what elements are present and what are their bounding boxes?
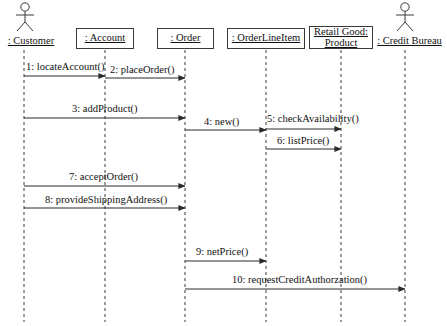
participant-order[interactable]: : Order [157,28,214,49]
participant-label-creditbureau: : Credit Bureau [372,35,447,47]
message-label-9: 9: netPrice() [196,246,248,258]
participant-label-account: : Account [85,32,126,44]
participant-label-order: : Order [170,32,200,44]
participant-label-product-line1: Retail Good: [314,26,368,37]
participant-label-customer: : Customer [0,35,62,47]
uml-sequence-diagram: : Customer: Account: Order: OrderLineIte… [0,0,447,326]
participant-orderlineitem[interactable]: : OrderLineItem [227,28,305,49]
message-label-8: 8: provideShippingAddress() [45,194,167,206]
message-label-6: 6: listPrice() [277,135,329,147]
actor-figure-icon [394,2,416,32]
participant-account[interactable]: : Account [76,28,134,49]
message-label-3: 3: addProduct() [72,103,138,115]
participant-label-orderlineitem: : OrderLineItem [232,32,301,44]
message-label-1: 1: locateAccount() [26,61,104,73]
participant-box-account: : Account [76,28,134,49]
message-label-2: 2: placeOrder() [110,64,174,76]
message-label-10: 10: requestCreditAuthorzation() [232,274,367,286]
message-label-5: 5: checkAvailability() [267,113,359,125]
participant-box-orderlineitem: : OrderLineItem [227,28,305,49]
diagram-vector-layer [0,0,447,326]
message-label-4: 4: new() [204,116,239,128]
participant-box-order: : Order [157,28,214,49]
actor-figure-icon [14,2,36,32]
message-label-7: 7: acceptOrder() [69,171,138,183]
participant-label-product-line2: Product [325,37,358,48]
participant-product[interactable]: Retail Good:Product [309,26,373,49]
participant-box-product: Retail Good:Product [309,26,373,49]
